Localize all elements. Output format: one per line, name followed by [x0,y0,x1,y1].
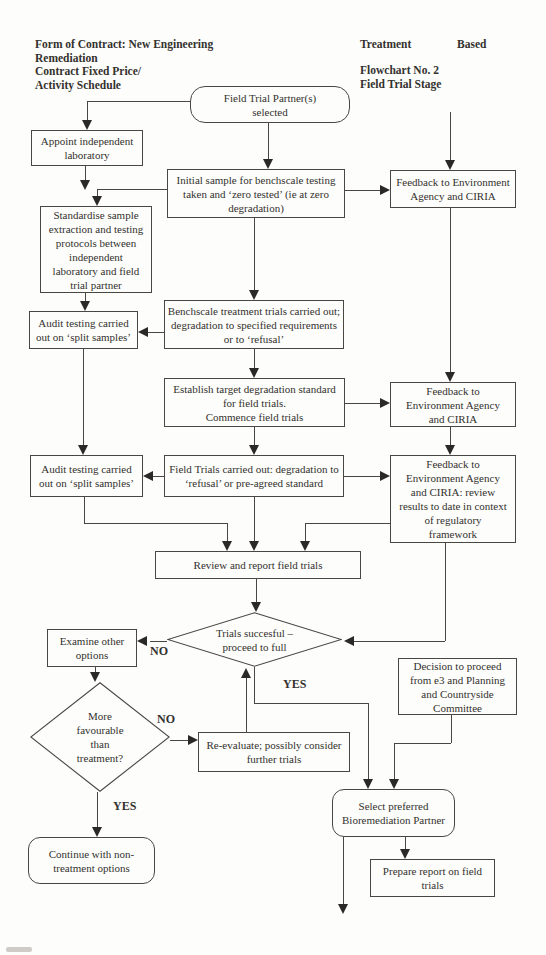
connector-feedback3-to-review [305,523,306,541]
arrowhead-into-feedback2 [445,372,455,382]
header-based-text: Based [457,38,486,52]
edge-label-no-favourable: NO [157,712,175,727]
arrowhead-into-reevaluate [188,735,198,745]
arrowhead-into-initial [263,159,273,169]
node-examine-options: Examine other options [47,629,137,667]
arrowhead-into-fieldtrials [249,445,259,455]
connector-top-to-feedback1 [450,112,451,160]
header-flowchart-title: Flowchart No. 2 Field Trial Stage [360,64,510,91]
node-select-partner: Select preferred Bioremediation Partner [332,789,455,837]
connector-yes-to-continue [97,792,98,827]
arrowhead-into-standardise [92,196,102,206]
connector-into-standardise [97,189,98,196]
node-prepare-report: Prepare report on field trials [370,859,495,897]
header-contract-text: Form of Contract: New Engineering Remedi… [35,38,275,92]
connector-feedback3-to-diamond [445,543,446,641]
arrowhead-into-select-left [363,779,373,789]
node-audit-testing-1: Audit testing carried out on ‘split samp… [29,311,138,349]
connector-fieldtrials-to-audit2 [152,476,164,477]
connector-feedback1-to-feedback2 [450,208,451,372]
node-field-trials: Field Trials carried out: degradation to… [164,455,344,497]
node-reevaluate: Re-evaluate; possibly consider further t… [198,732,350,772]
connector-feedback2-to-feedback3 [450,427,451,445]
arrowhead-into-examine [137,636,147,646]
flowchart-page: Form of Contract: New Engineering Remedi… [0,0,546,955]
scan-artifact [6,947,32,952]
node-decision-proceed: Decision to proceed from e3 and Planning… [398,658,517,715]
connector-diamond-to-examine [150,641,167,642]
node-initial-sample: Initial sample for benchscale testing ta… [167,169,345,218]
arrowhead-into-feedback3-left [380,471,390,481]
connector-favourable-to-reevaluate [170,740,188,741]
arrowhead-into-establish [249,368,259,378]
connector-fieldtrials-to-feedback3 [344,476,380,477]
edge-label-yes-favourable: YES [113,799,136,814]
arrowhead-into-appoint [82,120,92,130]
connector-partner-to-initial [268,123,269,159]
decision-more-favourable: More favourable than treatment? [30,682,170,792]
node-feedback-1: Feedback to Environment Agency and CIRIA [390,170,516,208]
connector-review-to-diamond [256,579,257,602]
connector-feedback3-to-review [305,523,390,524]
connector-partner-to-appoint [87,101,190,102]
connector-yes-to-select [254,667,255,703]
arrowhead-into-review-center [249,541,259,551]
arrowhead-into-feedback3 [445,445,455,455]
connector-audit1-to-audit2 [83,349,84,445]
arrowhead-into-audit2-right [143,471,153,481]
connector-initial-to-benchscale [254,218,255,290]
arrowhead-into-prepare [400,849,410,859]
arrowhead-into-diamond-right [344,636,354,646]
connector-fieldtrials-to-review [254,497,255,541]
arrowhead-into-audit1-right [138,327,148,337]
arrowhead-into-select-right [389,779,399,789]
arrowhead-into-audit1-top [80,301,90,311]
arrowhead-into-feedback2-left [380,398,390,408]
connector-establish-to-fieldtrials [254,427,255,445]
connector-audit2-to-review [84,497,85,523]
header-treatment-text: Treatment [360,38,411,52]
connector-establish-to-feedback2 [345,403,380,404]
connector-initial-to-feedback1 [345,190,380,191]
node-feedback-2: Feedback to Environment Agency and CIRIA [390,382,516,427]
connector-audit2-to-review [84,523,227,524]
arrowhead-into-audit2-top [78,445,88,455]
connector-benchscale-to-audit1 [148,332,164,333]
arrowhead-into-benchscale [249,290,259,300]
connector-appoint-down [85,166,86,180]
connector-yes-to-select [368,703,369,779]
edge-label-no-trials: NO [150,644,168,659]
node-standardise-protocols: Standardise sample extraction and testin… [40,206,152,293]
arrowhead-into-continue [92,827,102,837]
arrowhead-into-review-left [222,541,232,551]
decision-trials-successful-label: Trials succesful – proceed to full [167,612,342,667]
decision-more-favourable-label: More favourable than treatment? [30,682,170,792]
node-audit-testing-2: Audit testing carried out on ‘split samp… [30,455,143,497]
arrowhead-into-diamond-top [251,602,261,612]
node-continue-nontreatment: Continue with non- treatment options [28,837,155,884]
arrowhead-into-feedback1 [445,160,455,170]
node-review-report: Review and report field trials [155,551,361,579]
node-appoint-laboratory: Appoint independent laboratory [31,130,143,166]
connector-audit2-to-review [227,523,228,541]
connector-reevaluate-to-diamond [246,678,247,732]
connector-feedback3-to-diamond [352,641,445,642]
connector-initial-to-standardise [97,189,167,190]
connector-benchscale-to-establish [254,349,255,368]
node-benchscale-trials: Benchscale treatment trials carried out;… [164,300,344,349]
node-establish-standard: Establish target degradation standard fo… [164,378,345,427]
edge-label-yes-trials: YES [283,677,306,692]
connector-decision-to-select [394,743,451,744]
connector-select-continue-flow [343,837,344,904]
connector-decision-to-select [394,743,395,779]
arrowhead-into-review-right [300,541,310,551]
arrowhead-appoint-junction [80,180,90,190]
arrowhead-flow-exit [338,904,348,914]
connector-decision-to-select [451,715,452,743]
arrowhead-into-feedback1-left [380,185,390,195]
connector-standardise-to-audit1 [85,293,86,301]
arrowhead-into-diamond-bottom [241,668,251,678]
connector-select-to-prepare [405,837,406,849]
decision-trials-successful: Trials succesful – proceed to full [167,612,342,667]
arrowhead-into-favourable-top [90,672,100,682]
